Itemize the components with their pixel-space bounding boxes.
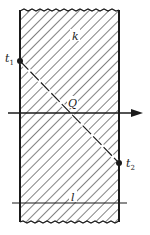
label-l: l <box>71 191 75 204</box>
label-q: Q <box>68 97 77 110</box>
slab-diagram: k Q l t1 t2 <box>0 0 150 235</box>
label-t2: t2 <box>126 157 135 172</box>
point-t2-marker <box>116 160 122 166</box>
arrow-head-icon <box>131 109 143 117</box>
point-t1-marker <box>17 58 23 64</box>
label-t1: t1 <box>5 52 14 67</box>
label-k: k <box>72 30 79 43</box>
